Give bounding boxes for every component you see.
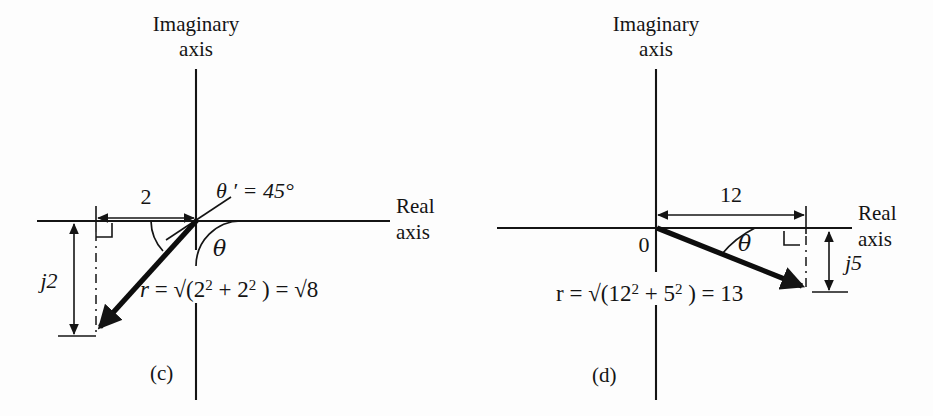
panel-d-dim-h-label: 12 xyxy=(720,182,742,207)
figure-svg: Imaginary axis Real axis 2 j2 xyxy=(0,0,933,416)
panel-c-magnitude-formula: r = √(22 + 22 ) = √8 xyxy=(140,277,318,302)
panel-c-right-angle-marker xyxy=(96,223,112,237)
panel-d-formula-close: ) xyxy=(682,281,695,306)
panel-c-formula-eq: = xyxy=(149,277,173,302)
panel-d-magnitude-formula: r = √(122 + 52 ) = 13 xyxy=(556,281,743,306)
panel-c-dim-v-label: j2 xyxy=(37,268,57,293)
panel-c-caption: (c) xyxy=(150,361,173,385)
panel-d-formula-open: ( xyxy=(601,281,609,306)
panel-c-formula-open: ( xyxy=(186,277,194,302)
panel-d-formula-radical: √ xyxy=(588,281,601,306)
panel-c-theta-prime-arc xyxy=(151,221,163,251)
panel-d: Imaginary axis Real axis 0 12 xyxy=(497,12,897,400)
figure-complex-plane-phasors: Imaginary axis Real axis 2 j2 xyxy=(0,0,933,416)
panel-d-origin-label: 0 xyxy=(639,232,650,257)
panel-d-phasor-vector xyxy=(657,228,802,286)
panel-d-right-angle-marker xyxy=(784,231,800,245)
panel-c-phasor-vector xyxy=(100,220,197,327)
panel-c-formula-radical: √ xyxy=(173,277,186,302)
panel-c-formula-result: 8 xyxy=(307,277,319,302)
panel-d-formula-b: 5 xyxy=(663,281,675,306)
panel-c-formula-close: ) xyxy=(256,277,269,302)
panel-c-formula-result-radical: √ xyxy=(294,277,307,302)
panel-d-formula-b-exp: 2 xyxy=(675,281,683,297)
panel-d-real-axis-label-line2: axis xyxy=(858,227,892,251)
panel-d-real-axis-label-line1: Real xyxy=(858,201,897,225)
panel-c-formula-result-eq: = xyxy=(270,277,294,302)
panel-d-formula-plus: + xyxy=(639,281,663,306)
panel-c-formula-b: 2 xyxy=(237,277,249,302)
panel-c-formula-a-exp: 2 xyxy=(205,277,213,293)
panel-c-theta-prime-label: θ ′ = 45° xyxy=(216,178,294,203)
panel-d-theta-label: θ xyxy=(738,231,751,256)
panel-d-formula-a-exp: 2 xyxy=(631,281,639,297)
panel-d-imaginary-axis-label-line1: Imaginary xyxy=(613,12,700,36)
panel-d-dim-v-label: j5 xyxy=(842,250,862,275)
panel-c-real-axis-label-line2: axis xyxy=(396,220,430,244)
panel-c-formula-b-exp: 2 xyxy=(249,277,257,293)
panel-d-formula-result: 13 xyxy=(720,281,743,306)
panel-c-formula-a: 2 xyxy=(194,277,206,302)
panel-c: Imaginary axis Real axis 2 j2 xyxy=(37,12,435,400)
panel-d-formula-result-eq: = xyxy=(696,281,720,306)
panel-c-theta-label: θ xyxy=(213,236,226,261)
panel-c-formula-plus: + xyxy=(213,277,237,302)
panel-d-caption: (d) xyxy=(592,363,617,387)
panel-d-formula-eq: = xyxy=(564,281,588,306)
panel-c-real-axis-label-line1: Real xyxy=(396,194,435,218)
panel-d-formula-a: 12 xyxy=(608,281,631,306)
panel-d-imaginary-axis-label-line2: axis xyxy=(639,37,673,61)
panel-c-dim-h-label: 2 xyxy=(141,184,152,209)
panel-c-imaginary-axis-label-line2: axis xyxy=(179,37,213,61)
panel-c-imaginary-axis-label-line1: Imaginary xyxy=(153,12,240,36)
